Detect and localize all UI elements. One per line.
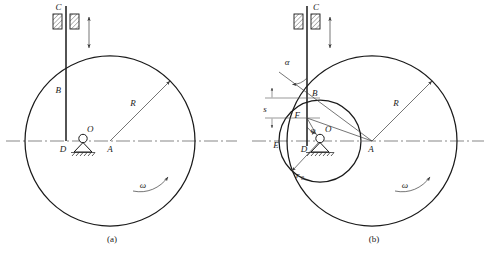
label-a-a: A — [106, 144, 113, 154]
label-r0-main: r — [296, 170, 300, 180]
label-c-b: C — [313, 2, 320, 12]
label-d-a: D — [59, 144, 67, 154]
rotation-arrow-a — [133, 177, 168, 192]
label-o-b: O — [325, 124, 332, 134]
label-omega-b: ω — [402, 180, 408, 190]
caption-b: (b) — [369, 234, 380, 244]
label-c-a: C — [55, 2, 62, 12]
label-r-a: R — [129, 98, 136, 108]
label-alpha-b: α — [285, 57, 290, 67]
guide-block-left-a — [53, 14, 62, 29]
label-b-b: B — [312, 88, 318, 98]
pivot-support-a — [71, 134, 95, 156]
radius-leader-a — [110, 81, 170, 141]
label-b-a: B — [56, 85, 62, 95]
label-d-b: D — [300, 144, 308, 154]
guide-block-left-b — [294, 14, 303, 29]
label-e-b: E — [272, 140, 279, 150]
label-omega-a: ω — [140, 180, 146, 190]
radius-leader-b — [372, 81, 432, 141]
caption-a: (a) — [107, 234, 117, 244]
panel-b: C B F D E O A R α φ s r 0 ω (b) — [252, 2, 484, 244]
label-o-a: O — [87, 124, 94, 134]
label-a-b: A — [367, 144, 374, 154]
panel-a: C B D O A R ω (a) — [6, 2, 237, 244]
rotation-arrow-b — [395, 177, 430, 192]
label-s-b: s — [263, 104, 267, 114]
guide-block-right-a — [70, 14, 79, 29]
pivot-support-b — [306, 134, 334, 156]
label-r-b: R — [392, 98, 399, 108]
label-phi-b: φ — [311, 125, 316, 135]
figure-root: C B D O A R ω (a) — [0, 0, 487, 255]
guide-block-right-b — [311, 14, 320, 29]
label-base-radius-b: r 0 — [296, 170, 304, 181]
mechanism-figure: C B D O A R ω (a) — [0, 0, 487, 255]
label-f-b: F — [294, 110, 301, 120]
label-r0-sub: 0 — [301, 175, 304, 181]
